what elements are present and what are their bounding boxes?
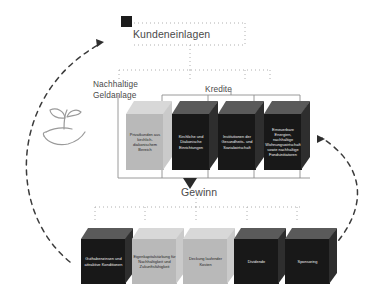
bottom-box-guthabenzinsen-face: Guthabenzinsen und attraktive Konditione… xyxy=(81,239,126,284)
right-arrowhead xyxy=(317,135,325,143)
middle-box-privatkunden-face: Privatkunden aus kirchlich-diakonischem … xyxy=(126,114,164,170)
bottom-box-sponsoring[interactable]: Sponsoring xyxy=(285,228,337,284)
bottom-box-eigenkapital[interactable]: Eigenkapitalstärkung für Nachhaltigkeit … xyxy=(132,228,184,284)
middle-box-kirchliche[interactable]: Kirchliche und Diakonische Einrichtungen xyxy=(172,101,218,170)
black-square-marker xyxy=(121,16,132,27)
middle-box-erneuerbare-face: Erneuerbare Energien, nachhaltige Wohnun… xyxy=(264,114,302,170)
bottom-box-deckung[interactable]: Deckung laufender Kosten xyxy=(183,228,235,284)
bottom-box-dividende-face: Dividende xyxy=(234,239,279,284)
diagram-canvas: Kundeneinlagen Nachhaltige Geldanlage Kr… xyxy=(0,0,379,294)
bottom-box-sponsoring-face: Sponsoring xyxy=(285,239,330,284)
left-arrowhead xyxy=(96,39,104,47)
middle-box-privatkunden[interactable]: Privatkunden aus kirchlich-diakonischem … xyxy=(126,101,172,170)
middle-box-kirchliche-face: Kirchliche und Diakonische Einrichtungen xyxy=(172,114,210,170)
middle-box-erneuerbare[interactable]: Erneuerbare Energien, nachhaltige Wohnun… xyxy=(264,101,310,170)
sprout-in-hand-icon xyxy=(38,103,92,149)
middle-box-institutionen[interactable]: Institutionen der Gesundheits- und Sozia… xyxy=(218,101,264,170)
bottom-box-deckung-face: Deckung laufender Kosten xyxy=(183,239,228,284)
middle-box-institutionen-face: Institutionen der Gesundheits- und Sozia… xyxy=(218,114,256,170)
bottom-box-guthabenzinsen[interactable]: Guthabenzinsen und attraktive Konditione… xyxy=(81,228,133,284)
bottom-box-dividende[interactable]: Dividende xyxy=(234,228,286,284)
gewinn-down-arrow xyxy=(182,176,198,189)
bottom-box-eigenkapital-face: Eigenkapitalstärkung für Nachhaltigkeit … xyxy=(132,239,177,284)
